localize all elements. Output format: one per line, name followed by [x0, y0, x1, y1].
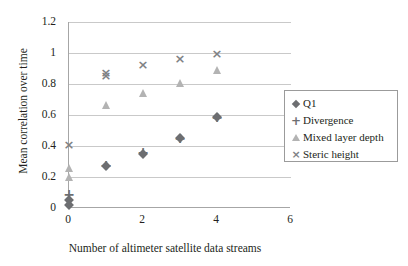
- plot-area: +++++××××××: [68, 22, 290, 208]
- legend: Q1 + Divergence Mixed layer depth × Ster…: [284, 90, 398, 162]
- legend-item-q1[interactable]: Q1: [289, 95, 394, 112]
- diamond-marker-icon: [289, 101, 303, 107]
- gridline-0.2: [69, 177, 291, 178]
- gridline-0.6: [69, 115, 291, 116]
- legend-label-steric-height: Steric height: [303, 149, 359, 160]
- legend-item-steric-height[interactable]: × Steric height: [289, 146, 394, 163]
- triangle-marker-icon: [289, 134, 303, 141]
- legend-item-divergence[interactable]: + Divergence: [289, 112, 394, 129]
- legend-label-mixed-layer-depth: Mixed layer depth: [303, 132, 384, 143]
- plus-marker-icon: +: [289, 115, 303, 127]
- gridline-0.8: [69, 84, 291, 85]
- x-axis-label: Number of altimeter satellite data strea…: [0, 242, 330, 254]
- chart-figure: Mean correlation over time 1.2 1 0.8 0.6…: [0, 0, 408, 266]
- gridline-1.0: [69, 53, 291, 54]
- x-tick-0: 0: [65, 214, 71, 226]
- legend-label-divergence: Divergence: [303, 115, 354, 126]
- x-tick-2: 2: [139, 214, 145, 226]
- legend-item-mixed-layer-depth[interactable]: Mixed layer depth: [289, 129, 394, 146]
- x-tick-4: 4: [213, 214, 219, 226]
- gridline-0.4: [69, 146, 291, 147]
- cross-marker-icon: ×: [289, 149, 303, 160]
- legend-label-q1: Q1: [303, 98, 316, 109]
- x-tick-6: 6: [287, 214, 293, 226]
- gridline-1.2: [69, 22, 291, 23]
